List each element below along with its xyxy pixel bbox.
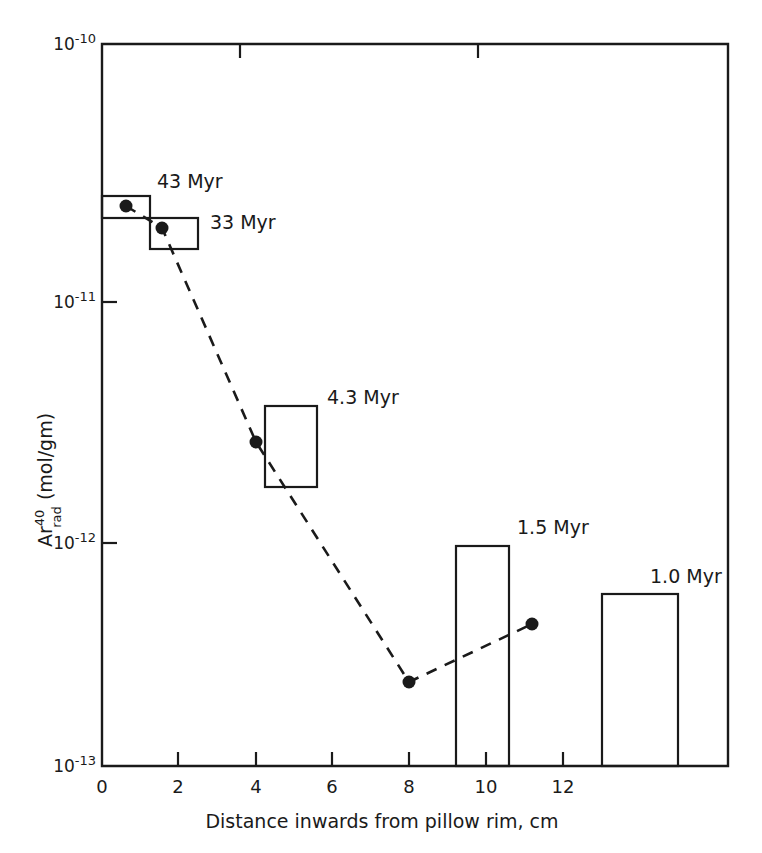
age-annotation-1: 43 Myr (157, 170, 223, 192)
chart-background (0, 0, 762, 853)
age-annotation-5: 1.0 Myr (650, 565, 722, 587)
data-point-5 (526, 618, 539, 631)
x-tick-label-8: 8 (403, 776, 414, 797)
y-axis-subscript: rad (49, 506, 64, 528)
x-tick-label-12: 12 (552, 776, 575, 797)
x-tick-label-6: 6 (326, 776, 337, 797)
y-axis-superscript: 40 (32, 510, 47, 527)
data-point-2 (156, 222, 169, 235)
x-tick-label-0: 0 (96, 776, 107, 797)
x-tick-label-4: 4 (250, 776, 261, 797)
x-tick-label-10: 10 (475, 776, 498, 797)
data-point-3 (250, 436, 263, 449)
age-annotation-2: 33 Myr (210, 211, 276, 233)
y-axis-units: (mol/gm) (34, 413, 56, 506)
x-axis-title: Distance inwards from pillow rim, cm (205, 810, 558, 832)
y-axis-element: Ar (34, 526, 56, 547)
data-point-4 (403, 676, 416, 689)
age-annotation-4: 1.5 Myr (517, 516, 589, 538)
argon-age-profile-chart: 10-10 10-11 10-12 10-13 Ar40rad (mol/gm)… (0, 0, 762, 853)
data-point-1 (120, 200, 133, 213)
age-annotation-3: 4.3 Myr (327, 386, 399, 408)
x-tick-label-2: 2 (172, 776, 183, 797)
